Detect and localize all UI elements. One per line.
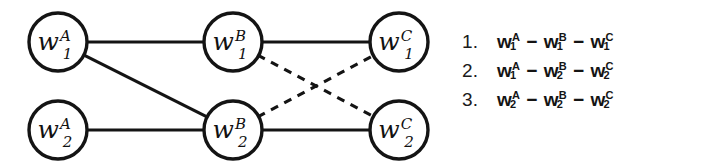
path-list: 1.wA1−wB1−wC12.wA1−wB2−wC23.wA2−wB2−wC2 — [462, 31, 703, 131]
list-item: 2.wA1−wB2−wC2 — [462, 60, 703, 89]
node-a1[interactable]: wA1 — [29, 13, 87, 71]
node-c1[interactable]: wC1 — [370, 13, 428, 71]
list-item-expression: wA2−wB2−wC2 — [496, 89, 615, 111]
path-term: wA1 — [497, 31, 520, 53]
path-term: wB1 — [544, 31, 567, 53]
list-item-expression: wA1−wB2−wC2 — [496, 60, 615, 82]
path-term: wB2 — [544, 89, 567, 111]
list-item: 3.wA2−wB2−wC2 — [462, 89, 703, 118]
path-separator: − — [568, 60, 589, 82]
path-term: wA1 — [497, 60, 520, 82]
list-item-index: 2. — [462, 60, 496, 82]
list-item-index: 3. — [462, 89, 496, 111]
node-a2[interactable]: wA2 — [29, 101, 87, 159]
graph-svg: wA1wA2wB1wB2wC1wC2 — [0, 0, 455, 161]
node-c2[interactable]: wC2 — [370, 101, 428, 159]
path-term: wC2 — [591, 89, 614, 111]
node-b1[interactable]: wB1 — [204, 13, 262, 71]
list-item-index: 1. — [462, 31, 496, 53]
path-separator: − — [521, 60, 542, 82]
figure-root: wA1wA2wB1wB2wC1wC2 1.wA1−wB1−wC12.wA1−wB… — [0, 0, 703, 161]
list-item-expression: wA1−wB1−wC1 — [496, 31, 615, 53]
nodes-layer: wA1wA2wB1wB2wC1wC2 — [29, 13, 428, 159]
path-term: wA2 — [497, 89, 520, 111]
path-term: wB2 — [544, 60, 567, 82]
path-separator: − — [568, 89, 589, 111]
path-separator: − — [521, 31, 542, 53]
graph-panel: wA1wA2wB1wB2wC1wC2 — [0, 0, 455, 161]
edge-a1-b2 — [83, 55, 208, 118]
node-b2[interactable]: wB2 — [204, 101, 262, 159]
path-separator: − — [568, 31, 589, 53]
list-item: 1.wA1−wB1−wC1 — [462, 31, 703, 60]
path-term: wC2 — [591, 60, 614, 82]
path-term: wC1 — [591, 31, 614, 53]
path-separator: − — [521, 89, 542, 111]
